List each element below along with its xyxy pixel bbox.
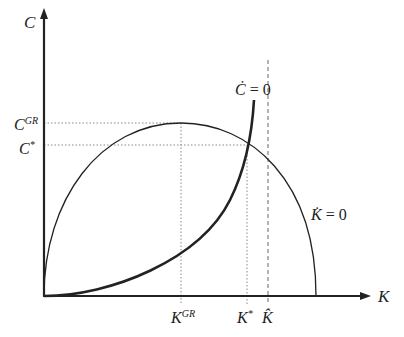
k-dot-zero-curve: [44, 123, 316, 296]
phase-diagram: C K CGR C* KGR K* K̂ Ċ = 0 K̇ = 0: [0, 0, 404, 337]
c-dot-zero-curve: [44, 100, 254, 296]
x-axis-arrow-icon: [360, 292, 371, 300]
c-dot-zero-label: Ċ = 0: [235, 81, 271, 98]
k-dot-zero-label: K̇ = 0: [310, 206, 347, 223]
y-axis-arrow-icon: [40, 8, 48, 19]
kstar-label: K*: [236, 308, 253, 326]
y-axis-label: C: [24, 13, 36, 32]
x-axis-label: K: [377, 287, 391, 306]
cstar-label: C*: [19, 139, 35, 157]
kgr-label: KGR: [170, 308, 195, 326]
cgr-label: CGR: [14, 115, 38, 133]
khat-label: K̂: [261, 308, 274, 326]
